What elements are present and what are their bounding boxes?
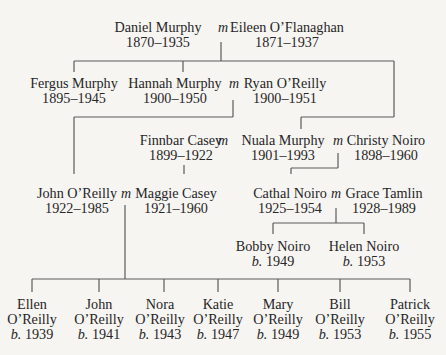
- person-born: b. 1939: [7, 327, 57, 342]
- person-dates: 1928–1989: [345, 201, 422, 216]
- person-name: Helen Noiro: [329, 239, 400, 254]
- person-cathal-noiro: Cathal Noiro 1925–1954: [253, 186, 327, 216]
- person-name: Bobby Noiro: [236, 239, 310, 254]
- family-tree-diagram: Daniel Murphy 1870–1935 m Eileen O’Flana…: [0, 0, 446, 355]
- person-born: b. 1949: [253, 327, 303, 342]
- person-born: b. 1949: [236, 254, 310, 269]
- person-name: Nuala Murphy: [241, 133, 324, 148]
- person-bobby-noiro: Bobby Noiro b. 1949: [236, 239, 310, 269]
- person-name: Daniel Murphy: [114, 20, 201, 35]
- person-name: Eileen O’Flanaghan: [230, 20, 344, 35]
- person-eileen-oflanaghan: Eileen O’Flanaghan 1871–1937: [230, 20, 344, 50]
- person-nora-oreilly: Nora O’Reilly b. 1943: [135, 297, 185, 342]
- person-nuala-murphy: Nuala Murphy 1901–1993: [241, 133, 324, 163]
- person-daniel-murphy: Daniel Murphy 1870–1935: [114, 20, 201, 50]
- person-name: Fergus Murphy: [30, 76, 118, 91]
- person-born: b. 1955: [385, 327, 435, 342]
- person-dates: 1898–1960: [347, 148, 425, 163]
- person-name: Cathal Noiro: [253, 186, 327, 201]
- person-dates: 1899–1922: [140, 148, 222, 163]
- marriage-symbol: m: [218, 133, 228, 148]
- person-ellen-oreilly: Ellen O’Reilly b. 1939: [7, 297, 57, 342]
- person-maggie-casey: Maggie Casey 1921–1960: [135, 186, 217, 216]
- marriage-symbol: m: [229, 76, 239, 91]
- person-dates: 1900–1950: [128, 91, 221, 106]
- marriage-symbol: m: [218, 20, 228, 35]
- marriage-symbol: m: [333, 133, 343, 148]
- marriage-symbol: m: [121, 186, 131, 201]
- person-dates: 1870–1935: [114, 35, 201, 50]
- marriage-symbol: m: [331, 186, 341, 201]
- person-born: b. 1941: [74, 327, 124, 342]
- person-mary-oreilly: Mary O’Reilly b. 1949: [253, 297, 303, 342]
- person-name: Ryan O’Reilly: [244, 76, 327, 91]
- person-dates: 1922–1985: [37, 201, 117, 216]
- person-john-oreilly-sr: John O’Reilly 1922–1985: [37, 186, 117, 216]
- person-helen-noiro: Helen Noiro b. 1953: [329, 239, 400, 269]
- person-name: Maggie Casey: [135, 186, 217, 201]
- person-grace-tamlin: Grace Tamlin 1928–1989: [345, 186, 422, 216]
- person-christy-noiro: Christy Noiro 1898–1960: [347, 133, 425, 163]
- person-dates: 1871–1937: [230, 35, 344, 50]
- person-born: b. 1947: [193, 327, 243, 342]
- person-bill-oreilly: Bill O’Reilly b. 1953: [315, 297, 365, 342]
- person-dates: 1901–1993: [241, 148, 324, 163]
- person-born: b. 1943: [135, 327, 185, 342]
- person-ryan-oreilly: Ryan O’Reilly 1900–1951: [244, 76, 327, 106]
- person-dates: 1900–1951: [244, 91, 327, 106]
- person-hannah-murphy: Hannah Murphy 1900–1950: [128, 76, 221, 106]
- person-name: Grace Tamlin: [345, 186, 422, 201]
- person-born: b. 1953: [315, 327, 365, 342]
- person-name: Hannah Murphy: [128, 76, 221, 91]
- person-name: John O’Reilly: [37, 186, 117, 201]
- person-born: b. 1953: [329, 254, 400, 269]
- person-dates: 1925–1954: [253, 201, 327, 216]
- person-name: Christy Noiro: [347, 133, 425, 148]
- person-finnbar-casey: Finnbar Casey 1899–1922: [140, 133, 222, 163]
- person-fergus-murphy: Fergus Murphy 1895–1945: [30, 76, 118, 106]
- person-dates: 1895–1945: [30, 91, 118, 106]
- person-patrick-oreilly: Patrick O’Reilly b. 1955: [385, 297, 435, 342]
- person-katie-oreilly: Katie O’Reilly b. 1947: [193, 297, 243, 342]
- person-john-oreilly-jr: John O’Reilly b. 1941: [74, 297, 124, 342]
- person-name: Finnbar Casey: [140, 133, 222, 148]
- person-dates: 1921–1960: [135, 201, 217, 216]
